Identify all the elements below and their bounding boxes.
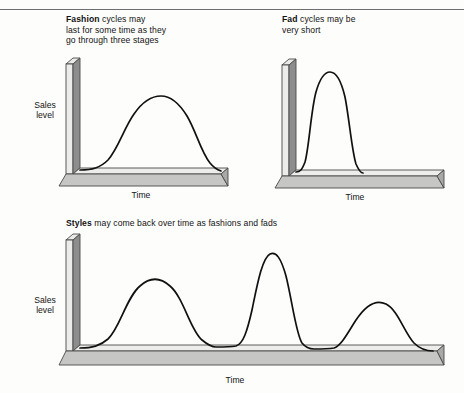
panel-fad: Fad cycles may be very short Time <box>250 0 464 210</box>
x-axis-top-face-fad <box>289 170 444 176</box>
y-axis-side-face-fad <box>289 59 296 176</box>
curve-styles <box>80 253 433 351</box>
chart-styles <box>0 210 464 393</box>
x-axis-front-face-styles <box>59 351 444 365</box>
chart-fad <box>250 0 464 210</box>
panel-styles: Styles may come back over time as fashio… <box>0 210 464 393</box>
x-axis-top-face-fashion <box>73 168 228 174</box>
x-axis-front-face-fad <box>275 176 444 188</box>
y-axis-front-face-fad <box>282 65 289 176</box>
panel-fashion: Fashion cycles may last for some time as… <box>0 0 250 210</box>
curve-fad <box>296 72 363 173</box>
y-axis-side-face-styles <box>73 234 80 351</box>
product-life-cycle-figure: Fashion cycles may last for some time as… <box>0 0 464 393</box>
y-axis-front-face-styles <box>66 240 73 351</box>
chart-fashion <box>0 0 250 210</box>
curve-fashion <box>80 96 221 171</box>
x-axis-top-face-styles <box>73 345 444 351</box>
y-axis-front-face-fashion <box>66 64 73 174</box>
x-axis-front-face-fashion <box>59 174 228 186</box>
y-axis-side-face-fashion <box>73 58 80 174</box>
